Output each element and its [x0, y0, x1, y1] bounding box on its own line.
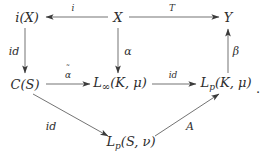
arrow-label-A: A	[186, 121, 194, 132]
node-Y: Y	[224, 11, 233, 24]
node-L-infinity-subscript: ∞	[102, 81, 110, 92]
node-i-of-X: i(X)	[15, 11, 39, 24]
arrow-label-id-diagonal: id	[46, 121, 57, 132]
node-Lp-S-base: L	[106, 134, 115, 149]
node-Lp-K-tail: (K, μ)	[215, 75, 252, 90]
arrow-label-id-middle: id	[169, 71, 178, 80]
commutative-diagram: i(X) X Y C(S) L∞(K, μ) Lp(K, μ) Lp(S, ν)…	[0, 0, 264, 166]
node-L-infinity-tail: (K, μ)	[110, 75, 147, 90]
arrow-label-beta: β	[233, 46, 239, 57]
node-Y-label: Y	[224, 10, 233, 25]
node-Lp-S-nu: Lp(S, ν)	[106, 135, 155, 151]
node-Lp-S-tail: (S, ν)	[121, 134, 156, 149]
node-L-infinity-base: L	[93, 75, 102, 90]
arrow-label-i: i	[72, 4, 75, 13]
arrow-label-alpha: α	[124, 46, 131, 57]
tilde-accent-icon: ˜	[66, 64, 70, 73]
node-X: X	[113, 11, 122, 24]
node-X-label: X	[113, 10, 122, 25]
arrow-label-id-left: id	[9, 46, 20, 57]
trailing-period: .	[256, 81, 260, 96]
node-Lp-K-base: L	[201, 75, 210, 90]
arrow-CS-to-LpS	[33, 94, 108, 136]
arrow-label-T: T	[169, 4, 175, 13]
node-Lp-K-mu: Lp(K, μ)	[201, 76, 252, 92]
arrow-label-alpha-tilde: ˜α	[65, 71, 71, 80]
node-C-of-S: C(S)	[11, 78, 40, 91]
node-L-infinity-K-mu: L∞(K, μ)	[93, 76, 147, 92]
node-C-of-S-label: C(S)	[11, 77, 40, 92]
node-i-of-X-label: i(X)	[15, 10, 39, 25]
